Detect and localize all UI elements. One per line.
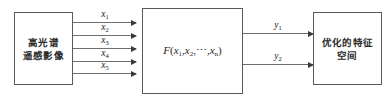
input-label-4: x4 (101, 48, 108, 59)
input-subscript-3: 3 (105, 39, 108, 46)
output-label-2: y2 (274, 51, 281, 62)
output-subscript-2: 2 (278, 55, 281, 62)
input-subscript-1: 1 (105, 13, 108, 20)
function-block: F(x1,x2,⋯,xn) (142, 8, 243, 94)
target-block-label: 优化的特征 空间 (322, 36, 374, 62)
block-flow-diagram: 高光谱 遥感影像 x1 x2 x3 x4 x5 F(x1,x2,⋯,xn) y1… (0, 0, 392, 102)
input-label-5: x5 (101, 60, 108, 71)
function-ellipsis: ⋯ (196, 44, 207, 56)
function-close-paren: ) (218, 44, 222, 56)
source-block: 高光谱 遥感影像 (14, 12, 73, 85)
function-formula: F(x1,x2,⋯,xn) (163, 44, 222, 58)
input-subscript-4: 4 (105, 52, 108, 59)
input-label-1: x1 (101, 9, 108, 20)
input-arrow-5 (73, 73, 136, 74)
input-subscript-2: 2 (105, 26, 108, 33)
output-arrow-1 (243, 33, 313, 34)
source-block-label: 高光谱 遥感影像 (23, 36, 64, 62)
output-arrow-2 (243, 64, 313, 65)
output-label-1: y1 (274, 20, 281, 31)
input-label-2: x2 (101, 22, 108, 33)
input-label-3: x3 (101, 35, 108, 46)
output-subscript-1: 1 (278, 24, 281, 31)
target-block: 优化的特征 空间 (313, 12, 382, 85)
input-subscript-5: 5 (105, 64, 108, 71)
function-name: F (163, 44, 170, 56)
